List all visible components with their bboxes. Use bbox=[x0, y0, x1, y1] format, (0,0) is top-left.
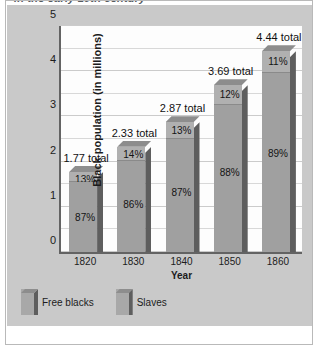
y-tick-label: 0 bbox=[50, 234, 56, 246]
y-tick-label: 1 bbox=[50, 189, 56, 201]
bar-column[interactable]: 11%89% bbox=[262, 51, 290, 252]
bar-segment-slaves[interactable]: 89% bbox=[262, 73, 290, 252]
y-tick-label: 3 bbox=[50, 98, 56, 110]
x-tick-label: 1820 bbox=[74, 256, 96, 267]
bar-segment-percent-free-blacks: 13% bbox=[166, 125, 198, 136]
bar-group: 12%88%3.69 total bbox=[214, 77, 248, 252]
legend-swatch-icon bbox=[21, 289, 34, 315]
y-tick-label: 4 bbox=[50, 53, 56, 65]
bar-segment-percent-slaves: 88% bbox=[214, 167, 246, 178]
x-tick-label: 1830 bbox=[122, 256, 144, 267]
chart-legend: Free blacksSlaves bbox=[21, 289, 189, 315]
x-tick-label: 1840 bbox=[170, 256, 192, 267]
bar-group: 11%89%4.44 total bbox=[262, 43, 296, 252]
y-tick-label: 2 bbox=[50, 144, 56, 156]
bottom-strip bbox=[7, 326, 313, 343]
bar-segment-percent-free-blacks: 11% bbox=[262, 56, 294, 67]
x-axis-title: Year bbox=[61, 270, 302, 281]
bar-segment-percent-slaves: 89% bbox=[262, 148, 294, 159]
figure-frame: in the early 19th century 012345 13%87%1… bbox=[5, 0, 313, 345]
bar-top-face bbox=[262, 45, 296, 51]
legend-swatch-side-face bbox=[129, 289, 133, 315]
bar-segment-percent-free-blacks: 14% bbox=[117, 149, 149, 160]
y-tick-label: 5 bbox=[50, 8, 56, 20]
bar-segment-percent-free-blacks: 12% bbox=[214, 89, 246, 100]
bar-top-face bbox=[166, 116, 200, 122]
y-axis-title: Black population (in millions) bbox=[91, 25, 103, 195]
bar-total-label: 4.44 total bbox=[256, 31, 301, 43]
bar-segment-percent-slaves: 86% bbox=[117, 199, 149, 210]
bar-total-label: 2.33 total bbox=[112, 127, 157, 139]
bar-side-face bbox=[242, 85, 248, 252]
x-tick-label: 1860 bbox=[267, 256, 289, 267]
bar-group: 13%87%2.87 total bbox=[166, 114, 200, 252]
bar-top-face bbox=[117, 141, 151, 147]
plot-area: 012345 13%87%1.77 total14%86%2.33 total1… bbox=[59, 26, 302, 254]
bar-column[interactable]: 13%87% bbox=[166, 122, 194, 252]
x-tick-label: 1850 bbox=[219, 256, 241, 267]
bar-segment-slaves[interactable]: 86% bbox=[117, 161, 145, 252]
bar-segment-slaves[interactable]: 88% bbox=[214, 105, 242, 252]
bar-segment-free-blacks[interactable]: 14% bbox=[117, 147, 145, 162]
legend-label: Free blacks bbox=[42, 297, 94, 308]
legend-swatch-icon bbox=[116, 289, 129, 315]
bar-side-face bbox=[194, 122, 200, 252]
bar-total-label: 3.69 total bbox=[208, 65, 253, 77]
bar-top-face bbox=[214, 79, 248, 85]
bar-segment-free-blacks[interactable]: 12% bbox=[214, 85, 242, 105]
bar-column[interactable]: 12%88% bbox=[214, 85, 242, 252]
legend-item-slaves[interactable]: Slaves bbox=[116, 289, 167, 315]
bar-column[interactable]: 14%86% bbox=[117, 147, 145, 252]
bar-total-label: 2.87 total bbox=[160, 102, 205, 114]
bar-segment-percent-slaves: 87% bbox=[166, 187, 198, 198]
bar-segment-slaves[interactable]: 87% bbox=[166, 139, 194, 252]
bar-segment-percent-slaves: 87% bbox=[69, 212, 101, 223]
bar-side-face bbox=[145, 147, 151, 252]
bar-segment-free-blacks[interactable]: 11% bbox=[262, 51, 290, 73]
bar-side-face bbox=[290, 51, 296, 252]
chart-panel: 012345 13%87%1.77 total14%86%2.33 total1… bbox=[7, 5, 313, 327]
bar-group: 14%86%2.33 total bbox=[117, 139, 151, 252]
legend-label: Slaves bbox=[137, 297, 167, 308]
bar-segment-free-blacks[interactable]: 13% bbox=[166, 122, 194, 139]
legend-swatch-side-face bbox=[34, 289, 38, 315]
figure-title: in the early 19th century bbox=[6, 0, 312, 4]
legend-item-free-blacks[interactable]: Free blacks bbox=[21, 289, 94, 315]
